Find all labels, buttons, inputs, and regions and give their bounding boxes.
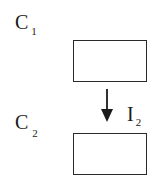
compartment-c2-letter: C	[15, 111, 28, 133]
compartment-c1-label: C1	[15, 12, 34, 32]
compartment-c2-label: C2	[15, 112, 34, 132]
compartment-c1-letter: C	[15, 11, 28, 33]
flow-i2-subscript: 2	[136, 116, 142, 128]
flow-arrow-down-icon	[100, 89, 114, 123]
compartment-c2-subscript: 2	[32, 127, 38, 139]
compartment-c1-subscript: 1	[31, 25, 37, 37]
compartment-c1-box	[73, 40, 147, 82]
compartment-c2-box	[73, 133, 147, 175]
flow-i2-label: I2	[127, 104, 139, 124]
flow-i2-letter: I	[127, 103, 134, 125]
